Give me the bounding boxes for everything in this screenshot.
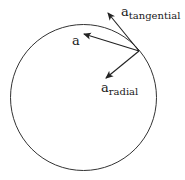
label-a-tangential: atangential	[121, 4, 180, 21]
label-a-radial-subscript: radial	[109, 86, 139, 97]
label-a-radial: aradial	[101, 80, 138, 97]
label-a-tangential-subscript: tangential	[129, 10, 181, 21]
label-a: a	[72, 33, 80, 48]
vector-a-radial-arrow	[106, 51, 139, 78]
circular-motion-diagram: a atangential aradial	[0, 0, 185, 180]
